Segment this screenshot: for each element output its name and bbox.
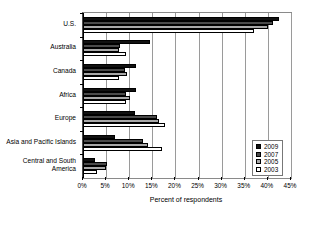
bar-group	[83, 88, 291, 104]
x-axis-tick-label: 20%	[161, 182, 187, 189]
bar	[83, 170, 97, 174]
bar	[83, 76, 119, 80]
bar-chart: U.S.AustraliaCanadaAfricaEuropeAsia and …	[0, 0, 322, 225]
bar	[83, 52, 126, 56]
legend-item-label: 2009	[264, 143, 278, 151]
category-axis: U.S.AustraliaCanadaAfricaEuropeAsia and …	[0, 12, 80, 177]
x-axis-tick	[267, 177, 268, 180]
x-axis-tick	[221, 177, 222, 180]
legend-item: 2003	[256, 166, 278, 174]
x-axis-tick-label: 0%	[69, 182, 95, 189]
bar	[83, 147, 162, 151]
x-axis-tick-label: 35%	[231, 182, 257, 189]
legend-item: 2005	[256, 158, 278, 166]
x-axis-tick-label: 10%	[115, 182, 141, 189]
category-axis-label: U.S.	[0, 20, 76, 28]
category-axis-label: Asia and Pacific Islands	[0, 138, 76, 146]
x-axis-tick-label: 25%	[185, 182, 211, 189]
bar	[83, 29, 254, 33]
category-axis-tick	[80, 13, 83, 14]
legend-swatch-icon	[256, 144, 261, 149]
bar	[83, 123, 165, 127]
x-axis-tick	[174, 177, 175, 180]
legend-item-label: 2007	[264, 151, 278, 159]
category-axis-label: Australia	[0, 44, 76, 52]
legend-item-label: 2003	[264, 166, 278, 174]
bar	[83, 100, 126, 104]
category-axis-label: Canada	[0, 67, 76, 75]
x-axis-tick	[82, 177, 83, 180]
x-axis-tick-label: 40%	[254, 182, 280, 189]
legend-item: 2009	[256, 143, 278, 151]
category-axis-tick	[80, 107, 83, 108]
legend-item: 2007	[256, 151, 278, 159]
x-axis-tick	[290, 177, 291, 180]
x-axis-tick	[244, 177, 245, 180]
x-axis-tick	[151, 177, 152, 180]
bar-group	[83, 40, 291, 56]
x-axis-tick	[198, 177, 199, 180]
bar-group	[83, 111, 291, 127]
category-axis-label: Central and South America	[0, 158, 76, 173]
category-axis-label: Europe	[0, 114, 76, 122]
x-axis-tick-label: 15%	[138, 182, 164, 189]
legend-swatch-icon	[256, 167, 261, 172]
category-axis-tick	[80, 131, 83, 132]
category-axis-tick	[80, 84, 83, 85]
x-axis-tick-label: 30%	[208, 182, 234, 189]
category-axis-tick	[80, 37, 83, 38]
gridline	[291, 13, 292, 178]
bar-group	[83, 64, 291, 80]
legend-item-label: 2005	[264, 158, 278, 166]
x-axis-title: Percent of respondents	[82, 196, 290, 203]
x-axis-tick-label: 45%	[277, 182, 303, 189]
legend-swatch-icon	[256, 159, 261, 164]
x-axis-tick	[105, 177, 106, 180]
x-axis-tick-label: 5%	[92, 182, 118, 189]
category-axis-tick	[80, 60, 83, 61]
category-axis-tick	[80, 154, 83, 155]
legend-swatch-icon	[256, 152, 261, 157]
x-axis-tick	[128, 177, 129, 180]
bar-group	[83, 17, 291, 33]
chart-legend: 2009200720052003	[252, 140, 283, 176]
category-axis-label: Africa	[0, 91, 76, 99]
